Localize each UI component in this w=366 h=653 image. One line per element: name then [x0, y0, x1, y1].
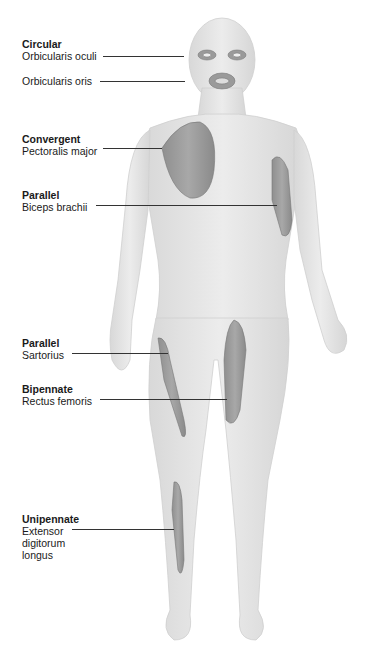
muscle-name-orbicularis-oculi: Orbicularis oculi — [22, 50, 97, 62]
muscle-name-rectus-femoris: Rectus femoris — [22, 395, 92, 407]
muscle-name-extensor: Extensor — [22, 525, 79, 537]
leader-line-pectoralis-major — [103, 148, 162, 149]
label-extensor-digitorum-longus: Unipennate Extensor digitorum longus — [22, 513, 79, 561]
label-pectoralis-major: Convergent Pectoralis major — [22, 133, 97, 157]
muscle-name-orbicularis-oris: Orbicularis oris — [22, 75, 92, 87]
fascicle-type-parallel: Parallel — [22, 189, 87, 201]
muscle-name-pectoralis-major: Pectoralis major — [22, 145, 97, 157]
fascicle-type-circular: Circular — [22, 38, 97, 50]
label-rectus-femoris: Bipennate Rectus femoris — [22, 383, 92, 407]
label-orbicularis-oculi: Circular Orbicularis oculi — [22, 38, 97, 62]
fascicle-type-unipennate: Unipennate — [22, 513, 79, 525]
label-sartorius: Parallel Sartorius — [22, 337, 64, 361]
fascicle-type-parallel: Parallel — [22, 337, 64, 349]
label-orbicularis-oris: Orbicularis oris — [22, 75, 92, 87]
muscle-name-sartorius: Sartorius — [22, 349, 64, 361]
leader-line-rectus-femoris — [100, 399, 227, 400]
leader-line-orbicularis-oris — [100, 81, 185, 82]
muscle-name-digitorum: digitorum — [22, 537, 79, 549]
fascicle-type-bipennate: Bipennate — [22, 383, 92, 395]
muscle-name-biceps-brachii: Biceps brachii — [22, 201, 87, 213]
muscle-name-longus: longus — [22, 549, 79, 561]
fascicle-type-convergent: Convergent — [22, 133, 97, 145]
leader-line-biceps-brachii — [96, 205, 277, 206]
leader-line-sartorius — [72, 353, 168, 354]
orbicularis-oris-muscle — [209, 73, 235, 89]
leader-line-extensor-digitorum-longus — [72, 529, 174, 530]
leader-line-orbicularis-oculi — [103, 56, 184, 57]
label-biceps-brachii: Parallel Biceps brachii — [22, 189, 87, 213]
